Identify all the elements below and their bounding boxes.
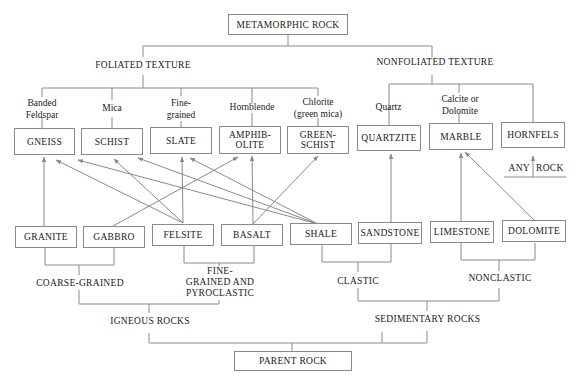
fine-grained-pyroclastic-label: FINE-GRAINED ANDPYROCLASTIC [180, 266, 260, 299]
mineral-fine-grained: Fine-grained [151, 97, 211, 121]
gabbro-box: GABBRO [83, 226, 145, 248]
limestone-box: LIMESTONE [430, 221, 494, 243]
granite-box: GRANITE [15, 226, 77, 248]
slate-box: SLATE [150, 127, 212, 154]
sedimentary-rocks-label: SEDIMENTARY ROCKS [370, 314, 485, 325]
sandstone-box: SANDSTONE [358, 222, 422, 244]
clastic-label: CLASTIC [333, 276, 383, 287]
hornfels-box: HORNFELS [501, 122, 565, 148]
nonclastic-label: NONCLASTIC [465, 273, 535, 284]
coarse-grained-label: COARSE-GRAINED [30, 278, 130, 289]
marble-box: MARBLE [429, 123, 493, 150]
any-rock-label-left: ANY [506, 163, 530, 174]
igneous-rocks-label: IGNEOUS ROCKS [105, 316, 195, 327]
greenschist-box: GREEN-SCHIST [287, 126, 349, 154]
schist-box: SCHIST [81, 128, 143, 155]
foliated-texture-label: FOLIATED TEXTURE [83, 60, 203, 71]
any-rock-label-right: ROCK [536, 163, 566, 174]
shale-box: SHALE [290, 223, 352, 245]
mineral-mica: Mica [82, 102, 142, 114]
mineral-chlorite: Chlorite(green mica) [283, 96, 353, 120]
parent-rock-box: PARENT ROCK [234, 351, 352, 371]
mineral-quartz: Quartz [361, 101, 416, 113]
amphibolite-box: AMPHIB-OLITE [219, 126, 281, 154]
basalt-box: BASALT [221, 224, 283, 246]
gneiss-box: GNEISS [14, 128, 75, 155]
felsite-box: FELSITE [152, 224, 214, 246]
nonfoliated-texture-label: NONFOLIATED TEXTURE [370, 57, 500, 68]
quartzite-box: QUARTZITE [357, 125, 421, 151]
mineral-calcite-dolomite: Calcite orDolomite [426, 93, 494, 117]
metamorphic-rock-box: METAMORPHIC ROCK [228, 14, 348, 35]
dolomite-box: DOLOMITE [502, 220, 566, 242]
mineral-hornblende: Hornblende [217, 101, 287, 113]
mineral-banded-feldspar: BandedFeldspar [12, 97, 72, 121]
